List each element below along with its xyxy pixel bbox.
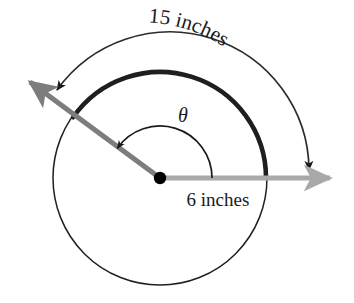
geometry-diagram: θ 6 inches 15 inches <box>0 0 354 303</box>
center-vertex-dot <box>154 172 166 184</box>
bold-arc-15-inches <box>73 72 266 178</box>
diagram-canvas: θ 6 inches 15 inches <box>0 0 354 303</box>
measure-arc-15-inches <box>57 32 309 170</box>
radius-label-6-inches: 6 inches <box>187 189 250 210</box>
theta-angle-arc <box>117 126 212 178</box>
arc-label-15-inches: 15 inches <box>148 3 234 51</box>
theta-label: θ <box>178 104 188 126</box>
